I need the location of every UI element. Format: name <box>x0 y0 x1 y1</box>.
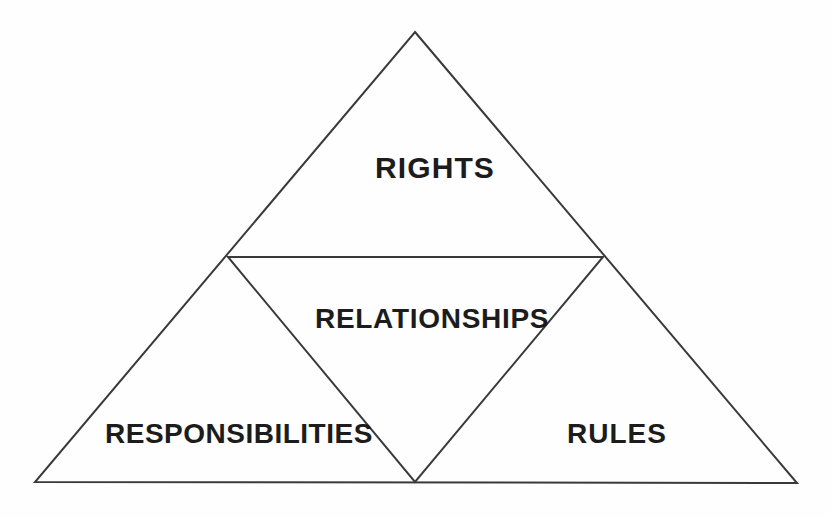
zone-label-rights: RIGHTS <box>375 153 495 183</box>
zone-label-rules: RULES <box>567 420 667 448</box>
zone-label-responsibilities: RESPONSIBILITIES <box>105 420 373 448</box>
zone-label-relationships: RELATIONSHIPS <box>315 305 549 333</box>
triangle-diagram-canvas: RIGHTS RELATIONSHIPS RESPONSIBILITIES RU… <box>0 0 831 518</box>
